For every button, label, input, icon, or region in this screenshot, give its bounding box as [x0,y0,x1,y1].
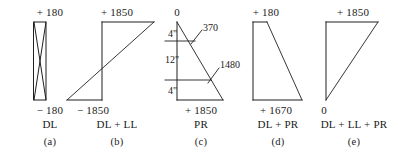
panel-c-bottom-value: + 1850 [165,104,237,116]
panel-d-caption: (d) [240,136,316,148]
panel-e-caption: (e) [306,136,398,148]
panel-b-bottom-value: − 1850 [50,104,136,116]
panel-e-shape [312,0,398,156]
panel-e: + 1850 0 DL + LL + PR (e) [312,0,398,156]
panel-c-caption: (c) [160,136,242,148]
panel-e-bottom-value: 0 [288,104,360,116]
panel-c-load-case: PR [165,118,237,130]
panel-c-annotation-1480: 1480 [220,59,240,70]
moment-diagram-figure: + 180 − 180 DL (a) + 1850 − 1850 DL + LL… [0,0,398,156]
panel-c-dimension-middle: 12" [165,54,179,65]
panel-c-dimension-lower: 4" [168,85,177,96]
panel-c-annotation-370: 370 [203,22,218,33]
panel-c: 0 4" 12" 4" 370 1480 + 1850 PR (c) [155,0,250,156]
panel-e-load-case: DL + LL + PR [304,118,398,130]
panel-c-dimension-upper: 4" [168,28,177,39]
